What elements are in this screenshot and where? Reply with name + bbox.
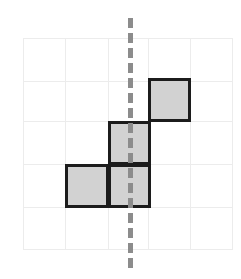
grid-line-vertical	[190, 38, 191, 250]
shaded-square-bottom-left	[65, 164, 109, 208]
grid-line-vertical	[65, 38, 66, 250]
grid-line-vertical	[232, 38, 233, 250]
grid-line-vertical	[23, 38, 24, 250]
shaded-square-top-right	[148, 78, 191, 122]
vertical-dashed-symmetry-line	[128, 18, 133, 268]
figure-canvas	[0, 0, 241, 279]
